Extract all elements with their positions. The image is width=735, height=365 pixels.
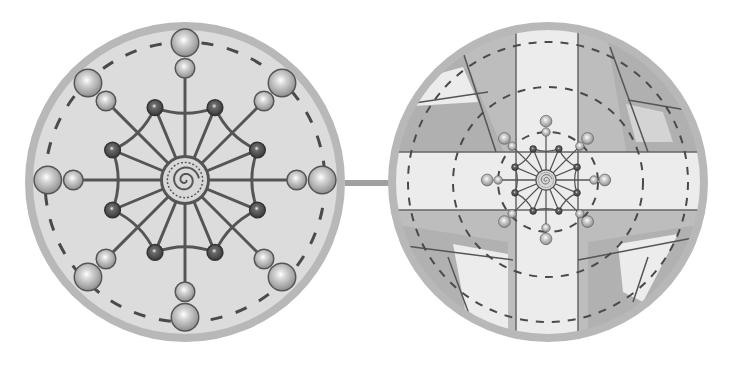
light-bead-large: [268, 263, 295, 290]
light-bead-small: [508, 142, 516, 150]
spiral-disc: [536, 170, 556, 190]
light-bead-small: [96, 91, 116, 111]
dark-bead: [530, 208, 537, 215]
light-bead-small: [590, 176, 598, 184]
dark-bead: [530, 146, 537, 153]
right-inner: [378, 12, 718, 352]
light-bead-small: [175, 58, 195, 78]
light-bead-small: [576, 142, 584, 150]
light-bead-large: [582, 216, 594, 228]
light-bead-small: [96, 249, 116, 269]
dark-bead: [105, 202, 121, 218]
dark-bead: [555, 146, 562, 153]
light-bead-small: [63, 170, 83, 190]
dark-bead: [147, 100, 163, 116]
light-bead-small: [494, 176, 502, 184]
light-bead-large: [499, 216, 511, 228]
dark-bead: [512, 164, 519, 171]
light-bead-large: [74, 263, 101, 290]
light-bead-large: [268, 69, 295, 96]
light-bead-large: [540, 115, 552, 127]
dark-bead: [574, 189, 581, 196]
left-circle: [25, 22, 345, 342]
light-bead-large: [499, 133, 511, 145]
diagram-canvas: [0, 0, 735, 365]
spiral-disc: [161, 156, 208, 203]
dark-bead: [147, 245, 163, 261]
connector-bar: [345, 180, 390, 186]
light-bead-large: [74, 69, 101, 96]
light-bead-large: [171, 303, 198, 330]
dark-bead: [207, 100, 223, 116]
light-bead-large: [481, 174, 493, 186]
diagram-stage: [0, 0, 735, 365]
light-bead-large: [308, 166, 335, 193]
light-bead-small: [576, 210, 584, 218]
light-bead-small: [542, 128, 550, 136]
light-bead-large: [540, 233, 552, 245]
dark-bead: [574, 164, 581, 171]
dark-bead: [512, 189, 519, 196]
dark-bead: [250, 142, 266, 158]
light-bead-small: [254, 249, 274, 269]
dark-bead: [105, 142, 121, 158]
light-bead-small: [287, 170, 307, 190]
dark-bead: [207, 245, 223, 261]
light-bead-small: [254, 91, 274, 111]
right-circle: [378, 12, 718, 352]
light-bead-small: [542, 224, 550, 232]
light-bead-large: [582, 133, 594, 145]
light-bead-small: [175, 282, 195, 302]
light-bead-large: [34, 166, 61, 193]
light-bead-large: [599, 174, 611, 186]
dark-bead: [555, 208, 562, 215]
light-bead-large: [171, 29, 198, 56]
light-bead-small: [508, 210, 516, 218]
dark-bead: [250, 202, 266, 218]
